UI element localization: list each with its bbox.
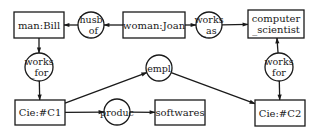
node-label: _of [84,25,99,37]
node-label: empl [147,63,171,74]
node-label: works [264,56,293,67]
edge-empl-to-c2 [171,73,255,104]
conceptual-graph-diagram: man:Billwoman:Joancomputer_scientistCie:… [0,0,318,135]
relation-node-wf1: works_for [24,53,53,81]
edge-wf2-to-cs [277,38,278,53]
nodes: man:Billwoman:Joancomputer_scientistCie:… [14,10,305,126]
node-label: _scientist [252,24,300,36]
relation-node-wf2: worksfor [264,53,293,81]
relation-node-husb: husb_of [78,12,104,38]
relation-node-produc: produc [100,99,134,125]
node-label: Cie:#C2 [259,108,302,119]
relation-node-empl: empl [146,55,172,81]
concept-node-c2: Cie:#C2 [255,100,305,126]
concept-node-joan: woman:Joan [123,12,186,38]
concept-node-c1: Cie:#C1 [15,100,65,125]
node-label: Cie:#C1 [19,107,62,118]
node-label: works [24,56,53,67]
node-label: woman:Joan [123,20,186,31]
node-label: _as [201,25,216,37]
node-label: man:Bill [18,20,60,31]
concept-node-soft: softwares [155,100,205,125]
concept-node-bill: man:Bill [14,12,64,38]
node-label: _for [30,67,49,79]
concept-node-cs: computer_scientist [248,10,304,38]
node-label: softwares [155,107,204,118]
node-label: works [194,14,223,25]
edge-c1-to-empl [65,73,147,104]
node-label: computer [252,13,301,24]
node-label: husb [79,14,102,25]
node-label: produc [100,107,134,118]
relation-node-worksas: works_as [194,12,223,38]
node-label: for [272,67,286,78]
